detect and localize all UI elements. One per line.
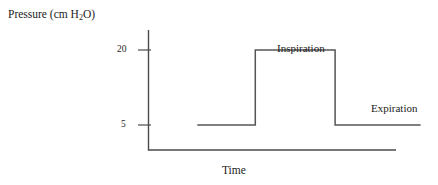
plot-canvas [0,0,438,185]
y-axis-title: Pressure (cm H2O) [8,9,95,22]
y-axis-title-suffix: O) [83,8,95,20]
y-tick-label-20: 20 [117,45,127,55]
y-axis-title-prefix: Pressure (cm H [8,8,79,20]
y-tick-label-5: 5 [121,120,126,130]
annotation-expiration: Expiration [371,103,417,114]
pressure-time-waveform-figure: Pressure (cm H2O) 20 5 Inspiration Expir… [0,0,438,185]
x-axis-title: Time [222,165,246,177]
annotation-inspiration: Inspiration [277,43,325,54]
